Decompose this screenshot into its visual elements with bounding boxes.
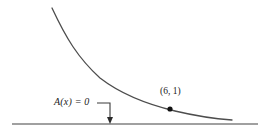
point-label: (6, 1) [160,86,181,96]
data-point-marker [167,106,172,111]
figure-container: A(x) = 0 (6, 1) [0,0,274,138]
leader-line [97,103,110,119]
asymptote-label: A(x) = 0 [54,96,90,107]
leader-arrowhead-icon [107,117,113,124]
plot-canvas [0,0,274,138]
